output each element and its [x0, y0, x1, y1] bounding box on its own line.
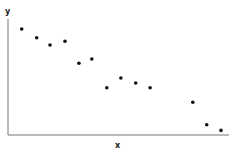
data-point — [77, 62, 81, 66]
data-points — [20, 27, 223, 132]
data-point — [63, 40, 67, 44]
data-point — [48, 43, 52, 47]
data-point — [90, 57, 94, 61]
data-point — [119, 76, 123, 80]
data-point — [20, 27, 24, 31]
data-point — [105, 86, 109, 90]
data-point — [219, 129, 223, 133]
data-point — [35, 36, 39, 40]
data-point — [134, 81, 138, 85]
data-point — [191, 101, 195, 105]
data-point — [205, 123, 209, 127]
scatter-chart: y x — [0, 0, 233, 160]
data-point — [148, 86, 152, 90]
y-axis-label: y — [5, 7, 11, 16]
x-axis-label: x — [115, 141, 121, 150]
